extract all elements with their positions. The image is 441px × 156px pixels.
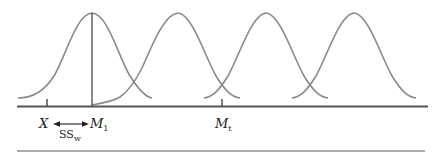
diagram-canvas: X M1 SSw Mt	[0, 0, 441, 156]
mt-label: Mt	[214, 116, 232, 133]
deviation-connector	[92, 13, 178, 105]
x-label: X	[38, 116, 49, 131]
double-arrow-icon	[53, 121, 89, 126]
ss-within-label: SSw	[59, 128, 81, 143]
distribution-curve-2	[178, 13, 240, 98]
m1-label: M1	[89, 116, 108, 133]
distribution-curve-4	[292, 13, 416, 98]
